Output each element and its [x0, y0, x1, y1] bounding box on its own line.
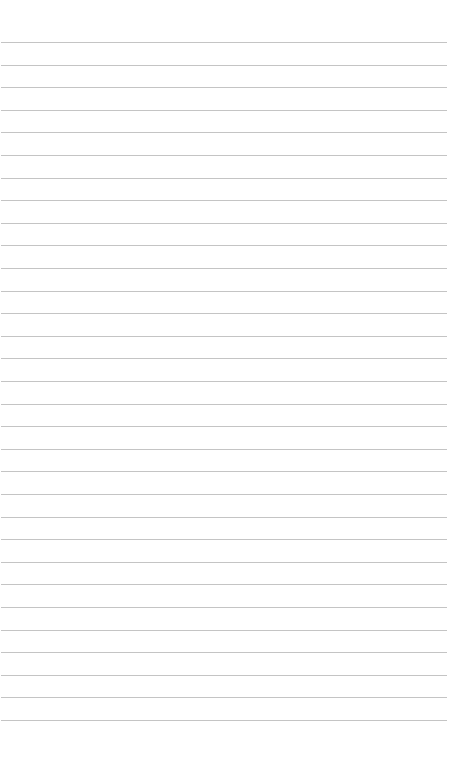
ruled-line: [1, 539, 447, 540]
ruled-line: [1, 720, 447, 721]
ruled-line: [1, 652, 447, 653]
ruled-line: [1, 155, 447, 156]
ruled-line: [1, 630, 447, 631]
ruled-line: [1, 607, 447, 608]
ruled-line: [1, 291, 447, 292]
ruled-line: [1, 404, 447, 405]
ruled-line: [1, 562, 447, 563]
ruled-line: [1, 471, 447, 472]
ruled-line: [1, 223, 447, 224]
ruled-line: [1, 178, 447, 179]
ruled-line: [1, 313, 447, 314]
ruled-line: [1, 517, 447, 518]
ruled-line: [1, 675, 447, 676]
ruled-line: [1, 132, 447, 133]
ruled-line: [1, 245, 447, 246]
ruled-line: [1, 697, 447, 698]
ruled-line: [1, 87, 447, 88]
ruled-line: [1, 268, 447, 269]
ruled-line: [1, 358, 447, 359]
ruled-line: [1, 110, 447, 111]
ruled-line: [1, 494, 447, 495]
ruled-line: [1, 200, 447, 201]
ruled-line: [1, 42, 447, 43]
ruled-line: [1, 584, 447, 585]
ruled-line: [1, 381, 447, 382]
ruled-line: [1, 336, 447, 337]
ruled-line: [1, 426, 447, 427]
ruled-line: [1, 65, 447, 66]
ruled-line: [1, 449, 447, 450]
lined-paper-sheet: [0, 0, 449, 781]
